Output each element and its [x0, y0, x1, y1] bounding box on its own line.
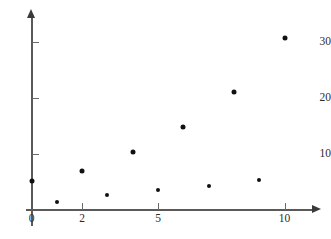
data-point	[29, 178, 34, 183]
x-tick-label: 5	[155, 213, 161, 225]
data-point	[105, 193, 109, 197]
data-point	[181, 125, 186, 130]
y-tick-mark	[32, 154, 39, 155]
y-tick-mark	[32, 98, 39, 99]
y-tick-mark	[32, 42, 39, 43]
data-point	[156, 188, 160, 192]
data-point	[257, 178, 261, 182]
data-point	[282, 36, 287, 41]
y-axis-line	[31, 14, 33, 226]
x-tick-mark	[82, 203, 83, 210]
data-point	[80, 168, 85, 173]
data-point	[207, 184, 211, 188]
arrow-up-icon	[27, 9, 35, 18]
x-axis-line	[26, 209, 314, 211]
x-tick-mark	[158, 203, 159, 210]
x-tick-label: 10	[279, 213, 291, 225]
data-point	[231, 89, 236, 94]
y-tick-label: 20	[305, 92, 331, 104]
x-tick-mark	[285, 203, 286, 210]
y-tick-label: 10	[305, 148, 331, 160]
scatter-plot: 02510 102030	[0, 0, 331, 239]
data-point	[55, 200, 59, 204]
y-tick-label: 30	[305, 36, 331, 48]
data-point	[130, 150, 135, 155]
arrow-right-icon	[312, 205, 321, 213]
x-tick-label: 0	[29, 213, 35, 225]
x-tick-label: 2	[79, 213, 85, 225]
